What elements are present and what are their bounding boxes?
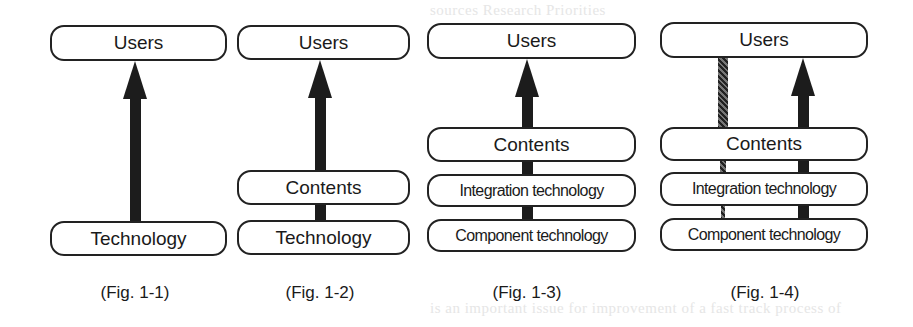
connector-bar — [315, 98, 326, 172]
box-users: Users — [50, 25, 227, 61]
figure-caption: (Fig. 1-2) — [286, 283, 355, 303]
connector-bar — [522, 96, 533, 129]
connector-bar — [798, 205, 809, 219]
figure-caption: (Fig. 1-4) — [731, 283, 800, 303]
bleed-through-text: sources Research Priorities — [430, 2, 606, 19]
arrow-up-icon — [791, 58, 815, 96]
box-technology: Technology — [50, 221, 227, 256]
connector-bar — [798, 95, 809, 129]
box-users: Users — [660, 22, 868, 58]
box-integration-technology: Integration technology — [427, 174, 636, 207]
hatched-connector-bar — [721, 205, 725, 219]
box-component-technology: Component technology — [427, 219, 636, 252]
box-contents: Contents — [660, 127, 868, 161]
box-component-technology: Component technology — [660, 218, 868, 251]
box-users: Users — [237, 25, 410, 60]
box-integration-technology: Integration technology — [660, 172, 868, 206]
figure-caption: (Fig. 1-3) — [493, 283, 562, 303]
figure-caption: (Fig. 1-1) — [101, 283, 170, 303]
arrow-up-icon — [123, 61, 147, 99]
box-technology: Technology — [237, 220, 410, 255]
box-contents: Contents — [427, 127, 636, 162]
hatched-connector-bar — [718, 58, 728, 128]
arrow-up-icon — [515, 59, 539, 97]
arrow-up-icon — [308, 60, 332, 98]
connector-bar — [130, 99, 141, 223]
box-contents: Contents — [237, 170, 410, 205]
box-users: Users — [427, 23, 636, 59]
